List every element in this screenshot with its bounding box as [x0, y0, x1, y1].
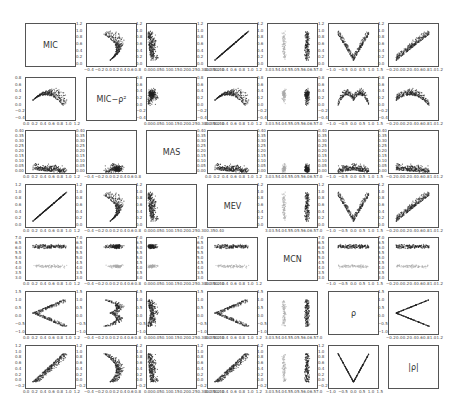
y-tick-labels: 0.00.20.40.60.81.01.2 — [318, 183, 324, 227]
diagonal-label-panel: MAS — [146, 130, 197, 174]
scatter-points — [87, 24, 136, 66]
scatter-points — [26, 78, 75, 120]
scatter-panel: −0.20.00.20.40.60.81.01.2−1.0−0.50.00.51… — [388, 291, 439, 335]
x-tick-labels: 0.000.050.100.150.200.250.300.350.40 — [144, 282, 201, 286]
y-tick-labels: 0.000.050.100.150.200.250.300.350.40 — [378, 129, 387, 173]
y-tick-labels: 3.03.54.04.55.05.56.06.57.0 — [76, 236, 82, 280]
y-tick-labels: 0.000.050.100.150.200.250.300.350.40 — [15, 129, 24, 173]
y-tick-labels: 0.00.20.40.60.81.01.2 — [257, 183, 263, 227]
scatter-points — [389, 131, 438, 173]
scatter-panel: 0.000.050.100.150.200.250.300.350.400.00… — [146, 184, 197, 228]
scatter-panel: 0.00.20.40.60.81.01.20.000.050.100.150.2… — [25, 130, 76, 174]
y-tick-labels: −0.4−0.20.00.20.40.60.8 — [197, 76, 207, 120]
x-tick-labels: 0.00.20.40.60.81.01.2 — [23, 175, 80, 179]
x-tick-labels: 3.03.54.04.55.05.56.06.57.0 — [265, 336, 322, 340]
y-tick-labels: −0.20.00.20.40.60.81.01.2 — [197, 344, 207, 388]
scatter-panel: 3.03.54.04.55.05.56.06.57.0−1.0−0.50.00.… — [267, 291, 318, 335]
x-tick-labels: −1.0−0.50.00.51.01.5 — [326, 229, 383, 233]
x-tick-labels: −1.0−0.50.00.51.01.5 — [326, 282, 383, 286]
scatter-panel: 0.000.050.100.150.200.250.300.350.40−0.2… — [146, 345, 197, 389]
scatter-points — [268, 346, 317, 388]
scatter-panel: 0.000.050.100.150.200.250.300.350.40−1.0… — [146, 291, 197, 335]
scatter-points — [26, 185, 75, 227]
variable-label: MAS — [147, 148, 196, 157]
scatter-panel: 0.00.20.40.60.81.01.2−0.20.00.20.40.60.8… — [25, 345, 76, 389]
x-tick-labels: −0.20.00.20.40.60.81.01.2 — [386, 122, 443, 126]
scatter-points — [87, 131, 136, 173]
scatter-points — [389, 78, 438, 120]
variable-label: MIC — [26, 41, 75, 50]
scatter-points — [208, 292, 257, 334]
scatter-panel: 0.000.050.100.150.200.250.300.350.400.00… — [146, 23, 197, 67]
x-tick-labels: 0.000.050.100.150.200.250.300.350.40 — [144, 229, 201, 233]
scatter-points — [87, 185, 136, 227]
x-tick-labels: −0.4−0.20.00.20.40.60.8 — [84, 68, 141, 72]
x-tick-labels: −0.4−0.20.00.20.40.60.8 — [84, 175, 141, 179]
x-tick-labels: −0.4−0.20.00.20.40.60.8 — [84, 336, 141, 340]
x-tick-labels: −1.0−0.50.00.51.01.5 — [326, 175, 383, 179]
scatter-points — [208, 131, 257, 173]
y-tick-labels: −1.0−0.50.00.51.01.5 — [15, 290, 25, 334]
x-tick-labels: 0.00.20.40.60.81.01.2 — [23, 122, 80, 126]
scatter-points — [26, 131, 75, 173]
variable-label: |ρ| — [389, 363, 438, 372]
y-tick-labels: 0.00.20.40.60.81.01.2 — [136, 183, 142, 227]
scatter-panel: 3.03.54.04.55.05.56.06.57.0−0.20.00.20.4… — [267, 345, 318, 389]
y-tick-labels: 0.00.20.40.60.81.01.2 — [197, 22, 203, 66]
scatter-points — [147, 185, 196, 227]
x-tick-labels: 0.00.20.40.60.81.01.2 — [23, 390, 80, 394]
diagonal-label-panel: MEV — [207, 184, 258, 228]
x-tick-labels: 3.03.54.04.55.05.56.06.57.0 — [265, 175, 322, 179]
scatter-points — [329, 131, 378, 173]
x-tick-labels: 3.03.54.04.55.05.56.06.57.0 — [265, 122, 322, 126]
scatter-panel: 0.000.050.100.150.200.250.300.350.40−0.4… — [146, 77, 197, 121]
y-tick-labels: −1.0−0.50.00.51.01.5 — [378, 290, 388, 334]
scatter-panel: 3.03.54.04.55.05.56.06.57.00.00.20.40.60… — [267, 184, 318, 228]
scatter-panel: −0.4−0.20.00.20.40.60.80.000.050.100.150… — [86, 130, 137, 174]
scatter-panel: 3.03.54.04.55.05.56.06.57.0−0.4−0.20.00.… — [267, 77, 318, 121]
y-tick-labels: −1.0−0.50.00.51.01.5 — [257, 290, 267, 334]
y-tick-labels: 0.00.20.40.60.81.01.2 — [136, 22, 142, 66]
scatter-panel: −0.4−0.20.00.20.40.60.8−0.20.00.20.40.60… — [86, 345, 137, 389]
x-tick-labels: 0.00.20.40.60.81.01.2 — [205, 336, 262, 340]
diagonal-label-panel: MCN — [267, 237, 318, 281]
scatter-points — [268, 24, 317, 66]
y-tick-labels: −0.4−0.20.00.20.40.60.8 — [318, 76, 328, 120]
y-tick-labels: −0.4−0.20.00.20.40.60.8 — [15, 76, 25, 120]
x-tick-labels: −0.20.00.20.40.60.81.01.2 — [386, 68, 443, 72]
scatter-panel: −0.20.00.20.40.60.81.01.20.00.20.40.60.8… — [388, 23, 439, 67]
y-tick-labels: 0.000.050.100.150.200.250.300.350.40 — [197, 129, 206, 173]
y-tick-labels: −0.4−0.20.00.20.40.60.8 — [378, 76, 388, 120]
scatter-panel: 0.00.20.40.60.81.01.2−0.20.00.20.40.60.8… — [207, 345, 258, 389]
y-tick-labels: 0.00.20.40.60.81.01.2 — [76, 22, 82, 66]
scatter-panel: −0.4−0.20.00.20.40.60.83.03.54.04.55.05.… — [86, 237, 137, 281]
scatter-panel: 0.00.20.40.60.81.01.2−0.4−0.20.00.20.40.… — [207, 77, 258, 121]
scatter-points — [87, 346, 136, 388]
scatter-points — [389, 292, 438, 334]
y-tick-labels: 0.000.050.100.150.200.250.300.350.40 — [76, 129, 85, 173]
x-tick-labels: 0.00.20.40.60.81.01.2 — [205, 282, 262, 286]
scatter-points — [329, 346, 378, 388]
scatter-points — [147, 78, 196, 120]
scatter-points — [147, 238, 196, 280]
x-tick-labels: 0.00.20.40.60.81.01.2 — [205, 390, 262, 394]
x-tick-labels: −0.20.00.20.40.60.81.01.2 — [386, 229, 443, 233]
scatter-panel: 0.00.20.40.60.81.01.23.03.54.04.55.05.56… — [25, 237, 76, 281]
diagonal-label-panel: MIC — [25, 23, 76, 67]
x-tick-labels: −1.0−0.50.00.51.01.5 — [326, 122, 383, 126]
x-tick-labels: 0.00.20.40.60.81.01.2 — [23, 336, 80, 340]
x-tick-labels: −0.20.00.20.40.60.81.01.2 — [386, 175, 443, 179]
scatter-matrix-figure: MIC−0.4−0.20.00.20.40.60.80.00.20.40.60.… — [0, 0, 456, 411]
scatter-panel: −1.0−0.50.00.51.01.53.03.54.04.55.05.56.… — [328, 237, 379, 281]
scatter-points — [329, 78, 378, 120]
x-tick-labels: 0.00.20.40.60.81.01.2 — [205, 68, 262, 72]
diagonal-label-panel: ρ — [328, 291, 379, 335]
scatter-points — [26, 346, 75, 388]
scatter-points — [208, 346, 257, 388]
scatter-panel: −0.20.00.20.40.60.81.01.20.000.050.100.1… — [388, 130, 439, 174]
x-tick-labels: 0.000.050.100.150.200.250.300.350.40 — [144, 68, 201, 72]
y-tick-labels: −0.20.00.20.40.60.81.01.2 — [136, 344, 146, 388]
y-tick-labels: −0.4−0.20.00.20.40.60.8 — [136, 76, 146, 120]
y-tick-labels: 3.03.54.04.55.05.56.06.57.0 — [197, 236, 203, 280]
scatter-panel: −1.0−0.50.00.51.01.50.00.20.40.60.81.01.… — [328, 23, 379, 67]
